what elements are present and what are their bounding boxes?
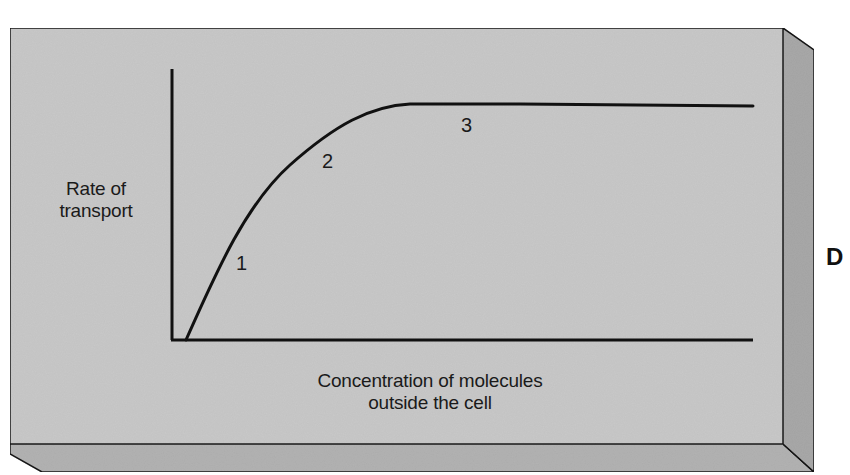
x-axis-label-line2: outside the cell xyxy=(290,392,570,414)
x-axis-label: Concentration of molecules outside the c… xyxy=(290,370,570,414)
curve-marker-3: 3 xyxy=(461,114,472,136)
curve-marker-1: 1 xyxy=(236,252,247,274)
panel-letter: D xyxy=(826,243,843,271)
y-axis-label-line1: Rate of xyxy=(44,178,148,200)
saturation-diagram: Rate of transport Concentration of molec… xyxy=(0,0,850,475)
y-axis-label-line2: transport xyxy=(44,200,148,222)
curve-marker-2: 2 xyxy=(322,150,333,172)
box-right-face xyxy=(783,28,814,472)
y-axis-label: Rate of transport xyxy=(44,178,148,222)
box-bottom-face xyxy=(10,444,814,472)
x-axis-label-line1: Concentration of molecules xyxy=(290,370,570,392)
